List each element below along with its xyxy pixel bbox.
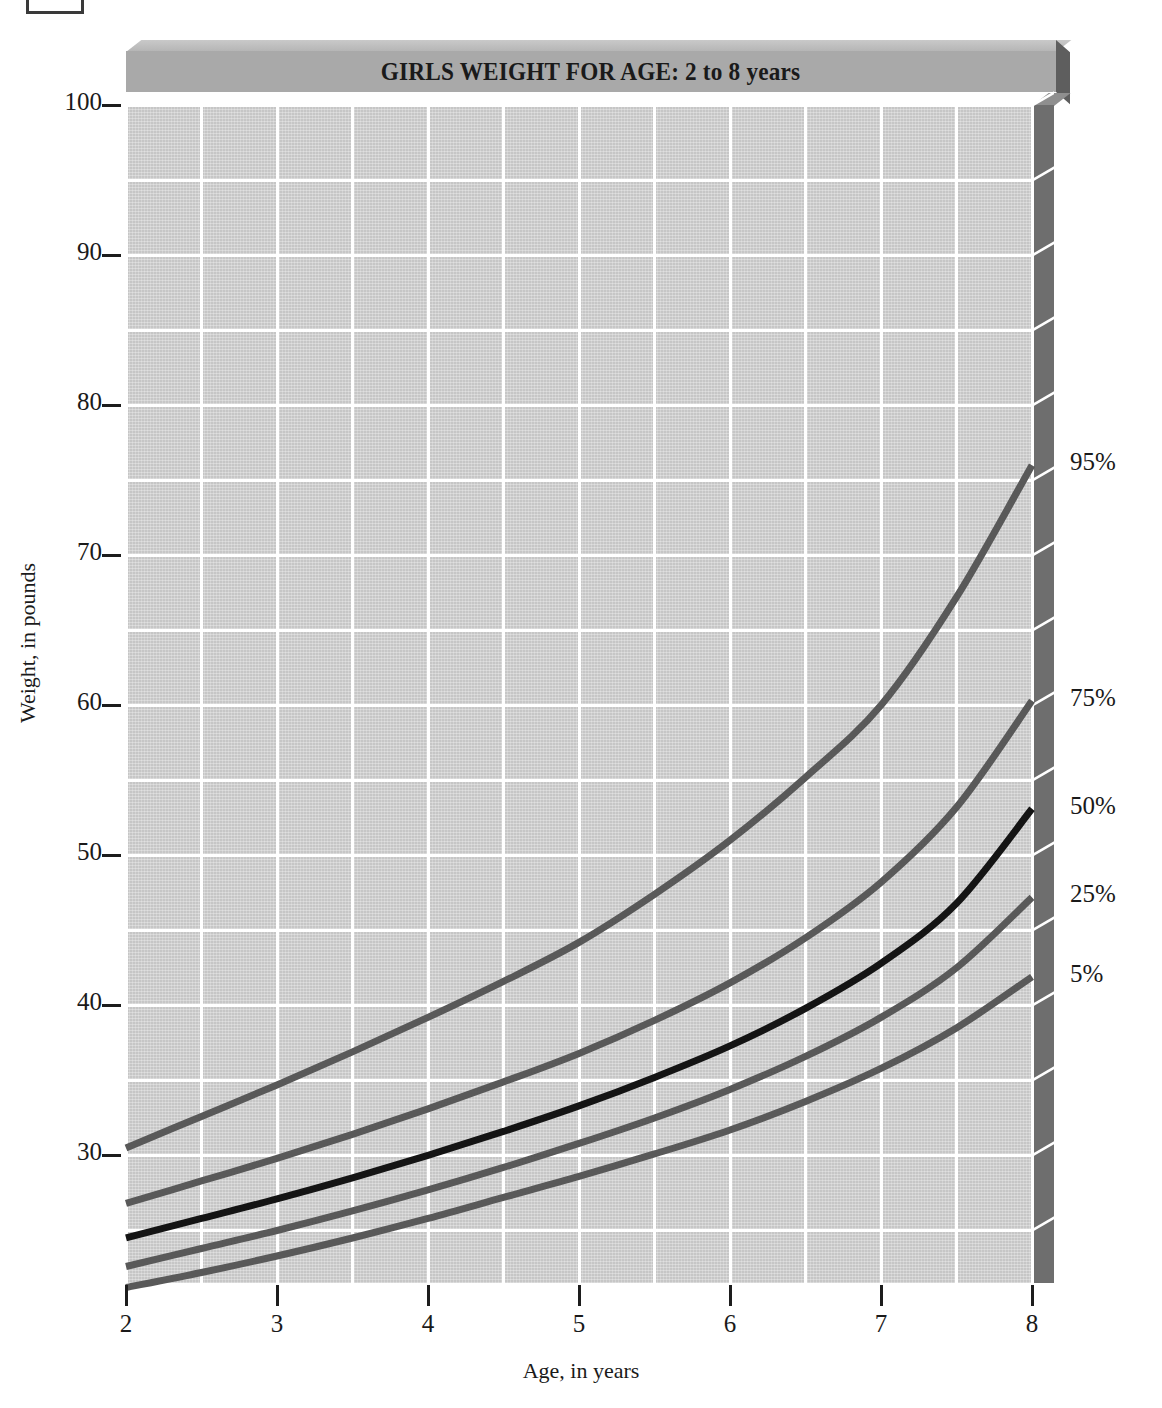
percentile-label-25pct: 25% bbox=[1070, 880, 1116, 908]
percentile-curve-5pct bbox=[126, 977, 1032, 1288]
chart-title: GIRLS WEIGHT FOR AGE: 2 to 8 years bbox=[381, 58, 801, 86]
x-tick-mark bbox=[880, 1285, 883, 1306]
y-axis-title: Weight, in pounds bbox=[15, 513, 41, 773]
y-tick-label: 70 bbox=[77, 538, 102, 566]
percentile-curves bbox=[126, 105, 1032, 1283]
x-tick-label: 8 bbox=[1026, 1310, 1039, 1338]
x-tick-mark bbox=[729, 1285, 732, 1306]
y-tick-label: 60 bbox=[77, 688, 102, 716]
x-tick-mark bbox=[276, 1285, 279, 1306]
y-tick-label: 90 bbox=[77, 238, 102, 266]
y-tick-mark bbox=[102, 1154, 121, 1157]
x-tick-mark bbox=[1031, 1285, 1034, 1306]
x-tick-mark bbox=[427, 1285, 430, 1306]
y-tick-mark bbox=[102, 854, 121, 857]
x-tick-label: 2 bbox=[120, 1310, 133, 1338]
y-tick-mark bbox=[102, 254, 121, 257]
x-tick-label: 3 bbox=[271, 1310, 284, 1338]
chart-title-bar: GIRLS WEIGHT FOR AGE: 2 to 8 years bbox=[126, 40, 1056, 92]
x-tick-label: 6 bbox=[724, 1310, 737, 1338]
y-tick-label: 50 bbox=[77, 838, 102, 866]
x-tick-label: 7 bbox=[875, 1310, 888, 1338]
x-tick-label: 4 bbox=[422, 1310, 435, 1338]
growth-chart-figure: GIRLS WEIGHT FOR AGE: 2 to 8 years 30405… bbox=[0, 0, 1162, 1408]
y-tick-mark bbox=[102, 704, 121, 707]
y-tick-label: 80 bbox=[77, 388, 102, 416]
x-axis-title: Age, in years bbox=[0, 1358, 1162, 1384]
y-tick-mark bbox=[102, 104, 121, 107]
y-tick-mark bbox=[102, 1004, 121, 1007]
y-tick-mark bbox=[102, 554, 121, 557]
title-bar-front-face: GIRLS WEIGHT FOR AGE: 2 to 8 years bbox=[126, 51, 1056, 92]
y-tick-label: 40 bbox=[77, 988, 102, 1016]
percentile-label-5pct: 5% bbox=[1070, 960, 1103, 988]
x-tick-label: 5 bbox=[573, 1310, 586, 1338]
y-tick-label: 100 bbox=[65, 88, 103, 116]
percentile-label-75pct: 75% bbox=[1070, 684, 1116, 712]
y-tick-label: 30 bbox=[77, 1138, 102, 1166]
percentile-label-50pct: 50% bbox=[1070, 792, 1116, 820]
x-tick-mark bbox=[578, 1285, 581, 1306]
percentile-curve-95pct bbox=[126, 465, 1032, 1148]
x-tick-mark bbox=[125, 1285, 128, 1306]
y-tick-mark bbox=[102, 404, 121, 407]
percentile-label-95pct: 95% bbox=[1070, 448, 1116, 476]
